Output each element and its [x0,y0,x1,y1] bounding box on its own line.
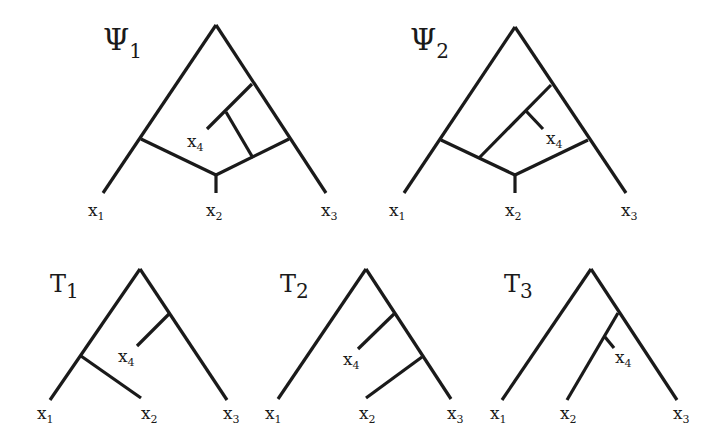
psi2-leaf-x4: x4 [546,128,563,151]
psi1-leaf-x4: x4 [187,131,204,154]
tree-t2: T2 x1 x2 x3 x4 [265,269,464,426]
t3-edge-x2 [567,313,618,400]
t2-leaf-x4: x4 [343,349,360,372]
t2-edge-x4 [358,314,394,349]
psi2-leaf-x1: x1 [389,200,406,223]
tree-t3: T3 x1 x2 x3 x4 [490,269,690,426]
psi1-leaf-x3: x3 [321,200,338,223]
psi2-leaf-x3: x3 [621,200,638,223]
tree-t1-title: T1 [50,270,79,303]
t1-edge-root-x3 [140,269,227,400]
tree-t2-title: T2 [280,270,309,303]
psi2-edge-left-center [441,140,515,175]
psi2-edge-x4 [526,111,543,129]
network-psi1: Ψ1 x1 x2 x3 x4 [88,22,338,223]
phylogenetic-figure: Ψ1 x1 x2 x3 x4 Ψ2 x1 x2 x3 x4 T1 [0,0,720,442]
psi1-edge-reticulation [226,112,253,158]
t1-leaf-x4: x4 [118,346,135,369]
psi2-edge-reticulation [479,85,551,158]
t1-leaf-x3: x3 [223,403,240,426]
network-psi1-title: Ψ1 [103,22,142,63]
t3-leaf-x2: x2 [560,403,577,426]
psi1-edge-left-center [141,139,216,175]
t1-edge-x4 [137,314,169,346]
t1-leaf-x1: x1 [37,403,54,426]
t2-edge-root-x3 [366,269,451,399]
network-psi2-title: Ψ2 [410,22,449,63]
tree-t1: T1 x1 x2 x3 x4 [37,269,240,426]
network-psi2: Ψ2 x1 x2 x3 x4 [389,22,638,223]
t3-leaf-x3: x3 [673,403,690,426]
t2-leaf-x3: x3 [447,403,464,426]
psi2-leaf-x2: x2 [505,200,522,223]
t2-leaf-x1: x1 [265,403,282,426]
t3-edge-x4 [605,337,614,348]
psi1-leaf-x2: x2 [206,200,223,223]
t2-edge-x2 [366,357,422,398]
t2-leaf-x2: x2 [359,403,376,426]
tree-t3-title: T3 [504,270,533,303]
psi1-leaf-x1: x1 [88,200,105,223]
t3-leaf-x1: x1 [490,403,507,426]
t3-leaf-x4: x4 [615,347,632,370]
psi1-edge-upper-inner [207,84,252,129]
t1-leaf-x2: x2 [141,403,158,426]
